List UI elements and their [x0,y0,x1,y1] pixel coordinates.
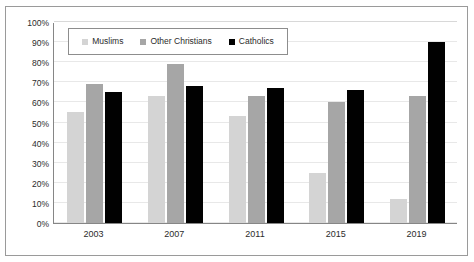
bar[interactable] [409,96,426,223]
x-axis-tick-label: 2011 [245,229,264,239]
y-axis-tick-label: 0% [9,220,49,229]
bar[interactable] [186,86,203,223]
y-axis-tick-label: 10% [9,200,49,209]
bar[interactable] [229,116,246,223]
chart-frame: 0%10%20%30%40%50%60%70%80%90%100% 200320… [5,6,468,256]
legend-label: Other Christians [150,37,211,46]
legend-item[interactable]: Catholics [229,37,274,46]
bar[interactable] [148,96,165,223]
bar[interactable] [309,173,326,223]
bar[interactable] [105,92,122,223]
legend-swatch-icon [140,39,146,45]
chart-legend: MuslimsOther ChristiansCatholics [68,28,288,55]
gridline-100 [54,21,457,22]
y-axis: 0%10%20%30%40%50%60%70%80%90%100% [6,23,49,224]
legend-swatch-icon [229,39,235,45]
bar[interactable] [67,112,84,223]
y-axis-tick-label: 40% [9,139,49,148]
y-axis-tick-label: 60% [9,99,49,108]
y-axis-tick-label: 30% [9,159,49,168]
bar[interactable] [167,64,184,223]
bar-group [309,23,364,223]
y-axis-tick-label: 70% [9,79,49,88]
legend-item[interactable]: Muslims [82,37,123,46]
bar[interactable] [347,90,364,223]
x-axis-tick-label: 2015 [326,229,346,239]
legend-label: Muslims [92,37,123,46]
x-axis: 20032007201120152019 [53,229,457,245]
legend-swatch-icon [82,39,88,45]
y-axis-tick-label: 90% [9,39,49,48]
y-axis-tick-label: 100% [9,19,49,28]
bar[interactable] [86,84,103,223]
bar[interactable] [328,102,345,223]
y-axis-tick-label: 20% [9,180,49,189]
bar[interactable] [248,96,265,223]
bar[interactable] [428,42,445,223]
bar-group [390,23,445,223]
x-axis-tick-label: 2007 [164,229,184,239]
y-axis-tick-label: 80% [9,59,49,68]
legend-label: Catholics [239,37,274,46]
x-axis-tick-label: 2019 [407,229,427,239]
bar[interactable] [390,199,407,223]
legend-item[interactable]: Other Christians [140,37,211,46]
bar[interactable] [267,88,284,223]
y-axis-tick-label: 50% [9,119,49,128]
x-axis-tick-label: 2003 [83,229,103,239]
